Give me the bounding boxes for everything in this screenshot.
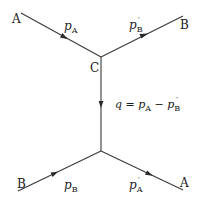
q-symbol: q	[115, 98, 122, 111]
particle-label-b-out: B	[180, 19, 189, 31]
momentum-p-a-prime: p′A	[129, 179, 142, 194]
momentum-p-a: pA	[64, 20, 77, 35]
momentum-subscript: A	[137, 185, 143, 194]
particle-label-b-in: B	[17, 178, 26, 190]
arrow-icon-exchange	[99, 101, 104, 108]
prime-mark: ′	[138, 176, 140, 184]
line-incoming-b	[18, 151, 101, 191]
p-subscript: B	[174, 104, 180, 113]
momentum-p-b-prime: p′B	[129, 19, 143, 34]
p-symbol: p	[167, 98, 174, 111]
arrow-icon-outgoing-a	[145, 170, 153, 175]
exchange-momentum-equation: q = pA − p′B	[115, 99, 180, 113]
line-incoming-a	[21, 13, 101, 57]
particle-label-a-out: A	[180, 177, 189, 189]
momentum-subscript: B	[137, 25, 143, 34]
momentum-symbol: p	[129, 18, 137, 32]
momentum-subscript: A	[72, 26, 78, 35]
minus-sign: −	[151, 98, 167, 111]
prime-mark: ′	[138, 16, 140, 24]
equals-sign: =	[122, 98, 138, 111]
momentum-subscript: B	[72, 185, 78, 194]
prime-mark: ′	[176, 96, 178, 104]
vertex-label-c: C	[90, 62, 99, 74]
momentum-p-b: pB	[64, 179, 78, 194]
momentum-symbol: p	[64, 19, 72, 33]
momentum-symbol: p	[64, 178, 72, 192]
momentum-symbol: p	[129, 178, 137, 192]
arrow-icon-incoming-b	[51, 172, 58, 177]
particle-label-a-in: A	[12, 13, 21, 25]
